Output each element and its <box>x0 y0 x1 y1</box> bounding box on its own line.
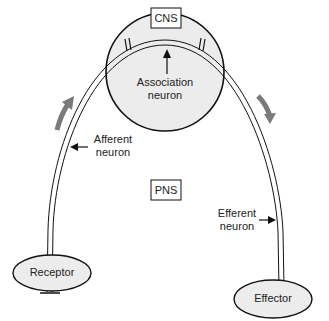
efferent-label-line1: Efferent <box>212 207 262 220</box>
cns-circle <box>106 13 224 131</box>
afferent-label-line2: neuron <box>88 146 138 159</box>
afferent-pointer-arrow <box>70 143 88 151</box>
association-label-line1: Association <box>120 76 210 89</box>
receptor-label: Receptor <box>13 266 91 279</box>
pns-label: PNS <box>151 184 181 197</box>
afferent-label-line1: Afferent <box>88 133 138 146</box>
association-label-line2: neuron <box>120 89 210 102</box>
efferent-flow-arrow <box>258 96 276 124</box>
effector-label: Effector <box>234 292 312 305</box>
afferent-flow-arrow <box>57 96 74 130</box>
efferent-label-line2: neuron <box>212 220 262 233</box>
cns-label: CNS <box>151 12 181 25</box>
